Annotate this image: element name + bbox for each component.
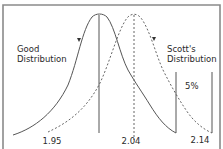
scott-label-line1: Scott's (167, 44, 217, 54)
good-arrow-icon (77, 38, 81, 42)
good-distribution-curve (13, 14, 176, 135)
tail-percent-label: 5% (185, 81, 199, 91)
good-label-line2: Distribution (17, 54, 67, 64)
x-tick-2: 2.04 (122, 136, 141, 146)
good-distribution-label: Good Distribution (17, 44, 67, 64)
scott-arrow-icon (152, 37, 156, 41)
x-tick-1: 1.95 (43, 136, 62, 146)
x-tick-3: 2.14 (191, 135, 210, 145)
scott-label-line2: Distribution (167, 54, 217, 64)
scott-distribution-label: Scott's Distribution (167, 44, 217, 64)
chart-frame (3, 5, 220, 149)
good-label-line1: Good (17, 44, 67, 54)
distribution-chart (0, 0, 223, 149)
